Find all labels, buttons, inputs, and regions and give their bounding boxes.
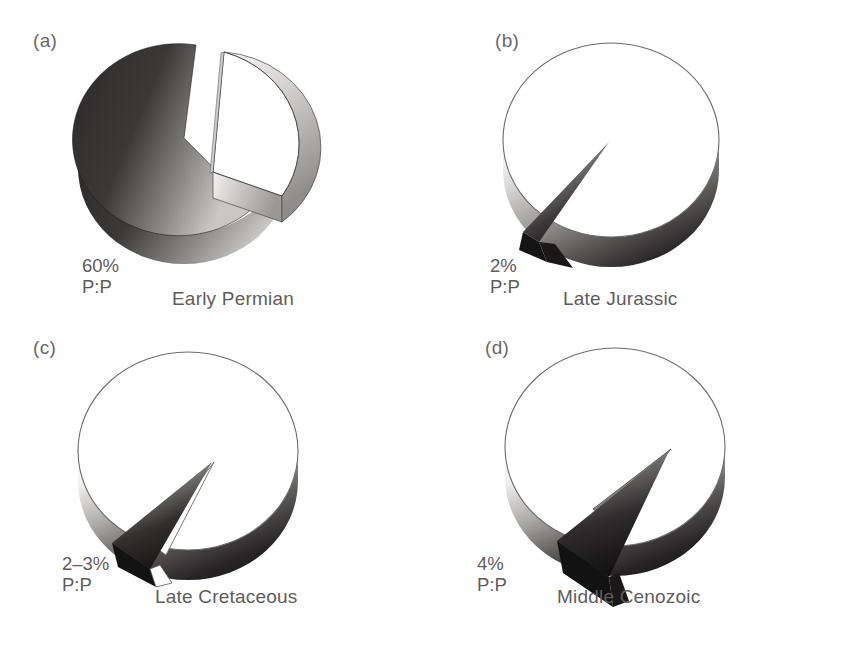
pct-label-c: 2–3% P:P [62,553,109,595]
figure-canvas: (a) [0,0,846,657]
pct-label-b: 2% P:P [490,255,520,297]
panel-c: (c) [0,329,423,657]
pie-chart-late-jurassic [423,0,846,328]
period-label-d: Middle Cenozoic [557,586,700,608]
pct-value-a: 60% [82,255,119,276]
pct-label-d: 4% P:P [477,553,507,595]
pct-unit-c: P:P [62,574,109,595]
pie-chart-early-permian [0,0,423,328]
period-label-b: Late Jurassic [563,288,678,310]
period-label-c: Late Cretaceous [155,586,297,608]
slice-remainder-top [78,352,298,550]
panel-b: (b) [423,0,846,328]
pct-unit-a: P:P [82,276,119,297]
pct-value-b: 2% [490,255,520,276]
panel-a: (a) [0,0,423,328]
panel-d: (d) [423,329,846,657]
pct-value-c: 2–3% [62,553,109,574]
pct-unit-b: P:P [490,276,520,297]
pct-label-a: 60% P:P [82,255,119,297]
slice-remainder-top [503,43,719,237]
slice-pp-exploded [210,52,321,222]
period-label-a: Early Permian [172,288,294,310]
pct-value-d: 4% [477,553,507,574]
pct-unit-d: P:P [477,574,507,595]
